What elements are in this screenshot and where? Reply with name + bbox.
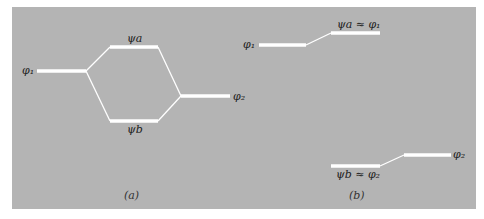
label-psi-b-b: ψb ≈ φ₂	[336, 169, 380, 180]
energy-level-lines	[0, 0, 484, 219]
label-phi1-a: φ₁	[22, 65, 34, 76]
label-phi2-b: φ₂	[453, 149, 465, 160]
label-psi-a-b: ψa ≈ φ₁	[337, 19, 381, 30]
connector-a-4	[158, 96, 181, 121]
label-phi1-b: φ₁	[243, 39, 255, 50]
caption-b: (b)	[349, 190, 365, 201]
connector-b-1	[306, 33, 331, 45]
connector-a-2	[86, 71, 110, 121]
connector-a-3	[158, 47, 181, 96]
label-psi-b-a: ψb	[127, 124, 143, 135]
label-psi-a-a: ψa	[127, 33, 142, 44]
connector-a-1	[86, 47, 110, 71]
caption-a: (a)	[124, 190, 139, 201]
connector-b-2	[380, 155, 404, 166]
label-phi2-a: φ₂	[233, 91, 245, 102]
